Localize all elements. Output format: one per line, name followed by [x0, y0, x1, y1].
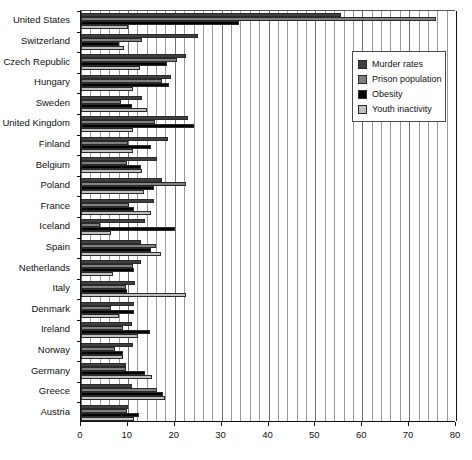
y-axis-tick [77, 114, 81, 115]
y-axis-tick [77, 341, 81, 342]
y-axis-category-labels: United StatesSwitzerlandCzech RepublicHu… [0, 0, 76, 460]
bar [81, 272, 113, 276]
bar [81, 396, 165, 400]
y-axis-tick [77, 73, 81, 74]
x-axis-tick [127, 422, 128, 426]
y-axis-label: Italy [53, 283, 70, 293]
bar-group [81, 238, 455, 259]
x-axis-tick-label: 60 [356, 429, 367, 440]
x-axis-tick-label: 40 [262, 429, 273, 440]
bar-group [81, 196, 455, 217]
bar [81, 334, 138, 338]
bar-group [81, 361, 455, 382]
y-axis-label: Denmark [31, 304, 70, 314]
x-axis-tick-label: 50 [309, 429, 320, 440]
y-axis-tick [77, 155, 81, 156]
x-axis-tick-label: 70 [403, 429, 414, 440]
y-axis-label: Czech Republic [3, 57, 70, 67]
y-axis-tick [77, 32, 81, 33]
x-axis-tick-label: 80 [450, 429, 461, 440]
bar [81, 128, 133, 132]
bar [81, 417, 134, 421]
legend-swatch-icon [358, 60, 367, 69]
x-axis: 01020304050607080 [80, 422, 455, 452]
bar-group [81, 258, 455, 279]
x-axis-tick [221, 422, 222, 426]
y-axis-label: Germany [31, 366, 70, 376]
bar-group [81, 11, 455, 32]
legend-label: Youth inactivity [372, 104, 432, 114]
bar [81, 87, 133, 91]
y-axis-tick [77, 402, 81, 403]
legend-label: Obesity [372, 89, 403, 99]
bar-group [81, 217, 455, 238]
bar-group [81, 279, 455, 300]
legend-swatch-icon [358, 90, 367, 99]
bar-group [81, 135, 455, 156]
x-axis-tick [314, 422, 315, 426]
y-axis-label: United Kingdom [2, 118, 70, 128]
chart-legend: Murder ratesPrison populationObesityYout… [352, 51, 446, 122]
y-axis-label: Finland [39, 139, 70, 149]
legend-item[interactable]: Murder rates [358, 57, 440, 71]
x-axis-tick [174, 422, 175, 426]
y-axis-tick [77, 52, 81, 53]
x-axis-tick [408, 422, 409, 426]
y-axis-tick [77, 93, 81, 94]
y-axis-label: Switzerland [21, 36, 70, 46]
x-axis-tick [80, 422, 81, 426]
legend-item[interactable]: Prison population [358, 72, 440, 86]
bar [81, 46, 124, 50]
bar [81, 231, 111, 235]
bar-group [81, 32, 455, 53]
legend-label: Murder rates [372, 59, 423, 69]
x-axis-tick-label: 0 [77, 429, 82, 440]
legend-item[interactable]: Obesity [358, 87, 440, 101]
y-axis-label: Belgium [36, 160, 70, 170]
bar-group [81, 402, 455, 423]
bar-group [81, 299, 455, 320]
bar [81, 293, 186, 297]
bar [81, 355, 123, 359]
x-axis-tick [455, 422, 456, 426]
bar [81, 375, 152, 379]
y-axis-label: Norway [38, 345, 70, 355]
bar [81, 211, 151, 215]
y-axis-label: Iceland [39, 221, 70, 231]
y-axis-tick [77, 238, 81, 239]
y-axis-tick [77, 279, 81, 280]
y-axis-tick [77, 320, 81, 321]
legend-swatch-icon [358, 105, 367, 114]
gridline [456, 11, 457, 421]
x-axis-tick [268, 422, 269, 426]
bar [81, 314, 119, 318]
y-axis-label: Sweden [36, 98, 70, 108]
y-axis-label: Spain [46, 242, 70, 252]
bar [81, 66, 140, 70]
bar-group [81, 382, 455, 403]
y-axis-tick [77, 196, 81, 197]
y-axis-label: Ireland [41, 324, 70, 334]
legend-swatch-icon [358, 75, 367, 84]
y-axis-tick [77, 382, 81, 383]
bar [81, 149, 133, 153]
bar-chart: United StatesSwitzerlandCzech RepublicHu… [0, 0, 472, 460]
bar [81, 190, 144, 194]
y-axis-label: France [40, 201, 70, 211]
y-axis-label: Netherlands [19, 263, 70, 273]
y-axis-tick [77, 11, 81, 12]
bar-group [81, 341, 455, 362]
bar-group [81, 320, 455, 341]
bar [81, 25, 128, 29]
y-axis-label: Poland [40, 180, 70, 190]
y-axis-label: Greece [39, 386, 70, 396]
legend-item[interactable]: Youth inactivity [358, 102, 440, 116]
x-axis-tick [361, 422, 362, 426]
x-axis-tick-label: 20 [168, 429, 179, 440]
x-axis-tick-label: 30 [215, 429, 226, 440]
x-axis-tick-label: 10 [122, 429, 133, 440]
y-axis-tick [77, 176, 81, 177]
bar [81, 252, 161, 256]
y-axis-tick [77, 258, 81, 259]
y-axis-tick [77, 135, 81, 136]
